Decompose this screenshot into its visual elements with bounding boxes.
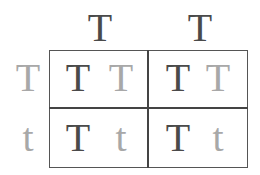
column-header-2: T: [180, 8, 220, 48]
cell-1-2-allele-a: T: [160, 58, 196, 98]
grid-horizontal-divider: [49, 107, 248, 109]
cell-1-2-allele-b: T: [200, 58, 236, 98]
cell-1-1-allele-b: T: [103, 58, 139, 98]
cell-2-1-allele-b: t: [103, 118, 139, 158]
cell-1-1-allele-a: T: [60, 58, 96, 98]
cell-2-2-allele-b: t: [200, 118, 236, 158]
cell-2-1-allele-a: T: [60, 118, 96, 158]
row-header-2: t: [10, 118, 46, 158]
row-header-1: T: [10, 58, 46, 98]
grid-vertical-divider: [147, 50, 149, 168]
column-header-1: T: [80, 8, 120, 48]
cell-2-2-allele-a: T: [160, 118, 196, 158]
